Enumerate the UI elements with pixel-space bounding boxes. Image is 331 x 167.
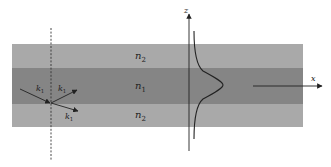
waveguide-diagram: n2 n1 n2 k1 k1 k1 z x [0, 0, 331, 167]
cladding-top-layer [12, 44, 303, 68]
cladding-bottom-layer [12, 104, 303, 127]
z-axis-label: z [183, 6, 189, 15]
x-axis-label: x [311, 74, 316, 83]
